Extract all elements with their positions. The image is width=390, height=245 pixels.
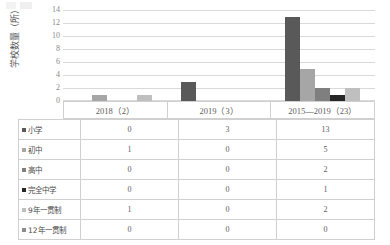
x-category-label: 2015—2019（23）	[271, 102, 374, 118]
legend-swatch-icon	[22, 208, 26, 212]
table-row: 完全中学001	[19, 180, 374, 200]
plot-area	[63, 10, 375, 101]
table-cell: 13	[277, 120, 374, 139]
bar-小学-2015—2019（23）	[285, 17, 300, 102]
y-tick-2: 2	[38, 84, 60, 92]
x-axis-category-band: 2018（2）2019（3）2015—2019（23）	[63, 101, 375, 119]
bar-group	[167, 10, 271, 101]
y-tick-10: 10	[38, 32, 60, 40]
series-name: 初中	[28, 144, 42, 155]
chart-screenshot-root: 学校数量（所） 14121086420 2018（2）2019（3）2015—2…	[0, 0, 390, 245]
table-row: 12年一贯制000	[19, 220, 374, 240]
bar-小学-2019（3）	[181, 82, 196, 102]
table-row: 9年一贯制102	[19, 200, 374, 220]
y-tick-8: 8	[38, 45, 60, 53]
table-row: 初中105	[19, 140, 374, 160]
bar-9年一贯制-2015—2019（23）	[345, 88, 360, 101]
legend-swatch-icon	[22, 188, 26, 192]
x-category-label: 2018（2）	[64, 102, 168, 118]
series-name: 小学	[28, 124, 42, 135]
y-axis-title: 学校数量（所）	[8, 0, 21, 75]
table-cell: 1	[81, 140, 179, 159]
legend-swatch-icon	[22, 148, 26, 152]
legend-swatch-icon	[22, 128, 26, 132]
table-row-header: 完全中学	[19, 180, 81, 199]
table-cell: 0	[81, 120, 179, 139]
table-cell: 0	[179, 140, 277, 159]
bar-chart: 学校数量（所） 14121086420	[0, 10, 390, 105]
x-category-label: 2019（3）	[168, 102, 272, 118]
table-cell: 0	[179, 160, 277, 179]
y-tick-0: 0	[38, 97, 60, 105]
table-row-header: 高中	[19, 160, 81, 179]
table-row-header: 12年一贯制	[19, 220, 81, 239]
table-row: 高中002	[19, 160, 374, 180]
table-cell: 1	[81, 200, 179, 219]
bar-group	[63, 10, 167, 101]
table-row-header: 初中	[19, 140, 81, 159]
data-table: 小学0313初中105高中002完全中学0019年一贯制10212年一贯制000	[18, 119, 375, 240]
y-tick-14: 14	[38, 6, 60, 14]
legend-swatch-icon	[22, 228, 26, 232]
series-name: 高中	[28, 164, 42, 175]
bar-初中-2015—2019（23）	[300, 69, 315, 102]
bar-高中-2015—2019（23）	[315, 88, 330, 101]
series-name: 12年一贯制	[28, 224, 66, 235]
y-tick-12: 12	[38, 19, 60, 27]
table-cell: 0	[179, 200, 277, 219]
table-cell: 5	[277, 140, 374, 159]
y-tick-6: 6	[38, 58, 60, 66]
table-cell: 3	[179, 120, 277, 139]
table-cell: 1	[277, 180, 374, 199]
table-cell: 0	[81, 180, 179, 199]
table-row: 小学0313	[19, 120, 374, 140]
y-axis-tick-labels: 14121086420	[34, 10, 60, 105]
y-tick-4: 4	[38, 71, 60, 79]
table-cell: 0	[81, 160, 179, 179]
table-cell: 2	[277, 200, 374, 219]
series-name: 9年一贯制	[28, 204, 61, 215]
table-cell: 2	[277, 160, 374, 179]
table-row-header: 小学	[19, 120, 81, 139]
legend-swatch-icon	[22, 168, 26, 172]
bar-group	[271, 10, 375, 101]
table-cell: 0	[179, 220, 277, 239]
table-cell: 0	[81, 220, 179, 239]
series-name: 完全中学	[28, 184, 56, 195]
bar-groups	[63, 10, 375, 101]
table-cell: 0	[179, 180, 277, 199]
table-cell: 0	[277, 220, 374, 239]
table-row-header: 9年一贯制	[19, 200, 81, 219]
